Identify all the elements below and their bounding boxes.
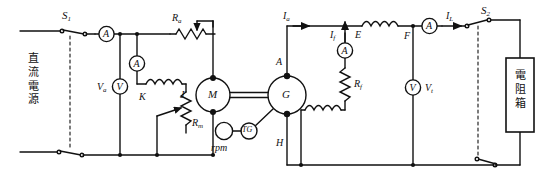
motor-symbol: M	[208, 89, 217, 100]
circuit-schematic-svg	[0, 0, 547, 177]
line-ammeter-symbol: A	[103, 29, 109, 39]
dc-supply-char-0: 直	[28, 52, 39, 66]
terminal-voltmeter-symbol: V	[410, 83, 416, 93]
current-ia-label: Ia	[283, 11, 290, 23]
current-il-label: IL	[446, 11, 453, 23]
load-box-label: 電 阻 箱	[509, 69, 531, 110]
motor-voltmeter-label: Va	[97, 82, 107, 94]
resistor-rf	[340, 68, 350, 110]
resistor-rm-wiper	[157, 108, 181, 155]
current-if-label: If	[330, 30, 335, 42]
generator-armature-bottom-lead	[287, 114, 495, 165]
resistor-ra-label: Ra	[172, 13, 182, 25]
motor-voltmeter-symbol: V	[117, 82, 123, 92]
node-vt-bottom	[411, 163, 415, 167]
dc-supply-char-1: 流	[28, 66, 39, 80]
terminal-k-label: K	[139, 92, 146, 102]
rpm-indicator-circle	[215, 122, 232, 139]
circuit-diagram: 直 流 電 源 電 阻 箱 S1 S2 A A V A V A Va Vt M …	[0, 0, 547, 177]
terminal-h-label: H	[276, 138, 283, 148]
resistor-rf-label: Rf	[354, 79, 362, 91]
terminal-f-label: F	[404, 31, 410, 41]
load-box-char-2: 箱	[515, 97, 526, 111]
switch-s2-label: S2	[481, 5, 490, 18]
generator-armature-top-lead	[287, 26, 345, 76]
load-box-char-0: 電	[515, 69, 526, 83]
load-box-char-1: 阻	[515, 83, 526, 97]
motor-brush-bottom	[210, 109, 216, 115]
shaft-coupling	[230, 93, 269, 98]
motor-brush-top	[210, 75, 216, 81]
generator-symbol: G	[282, 89, 290, 100]
generator-shunt-field-coil	[301, 106, 345, 166]
dc-supply-label: 直 流 電 源	[22, 52, 44, 107]
switch-s2-top-pole	[465, 18, 520, 28]
dc-supply-char-2: 電	[28, 80, 39, 94]
terminal-voltmeter-label: Vt	[425, 83, 433, 95]
generator-series-field-coil	[345, 22, 413, 27]
terminal-a-label: A	[276, 57, 282, 67]
terminal-e-label: E	[355, 30, 361, 40]
tacho-drive-link	[253, 109, 273, 128]
load-ammeter-symbol: A	[426, 21, 432, 31]
generator-field-ammeter-symbol: A	[342, 46, 348, 56]
switch-s1-label: S1	[62, 10, 71, 23]
node-h-rail	[299, 163, 303, 167]
switch-s1-bottom-pole	[57, 150, 120, 157]
motor-field-ammeter-symbol: A	[134, 59, 140, 69]
terminal-j-label: J	[180, 90, 184, 100]
dc-supply-char-3: 源	[28, 93, 39, 107]
rpm-label: rpm	[211, 143, 227, 153]
switch-s1-top-pole	[60, 29, 95, 36]
resistor-ra	[170, 29, 215, 39]
resistor-rm-label: Rm	[192, 118, 203, 130]
resistor-ra-wiper	[197, 21, 213, 30]
tacho-symbol: TG	[242, 126, 252, 134]
